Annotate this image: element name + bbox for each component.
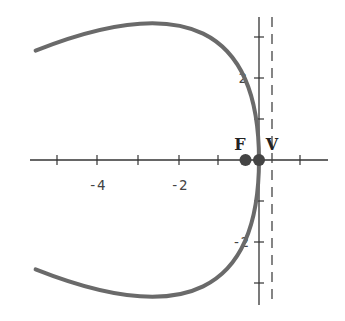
vertex-point: [253, 154, 265, 166]
vertex-label: V: [265, 135, 279, 154]
focus-label: F: [234, 135, 246, 154]
x-tick-label-minus4: -4: [89, 177, 106, 193]
parabola-chart: -4 -2 2 -2 F V: [0, 0, 345, 321]
x-tick-label-minus2: -2: [171, 177, 188, 193]
focus-point: [240, 154, 252, 166]
